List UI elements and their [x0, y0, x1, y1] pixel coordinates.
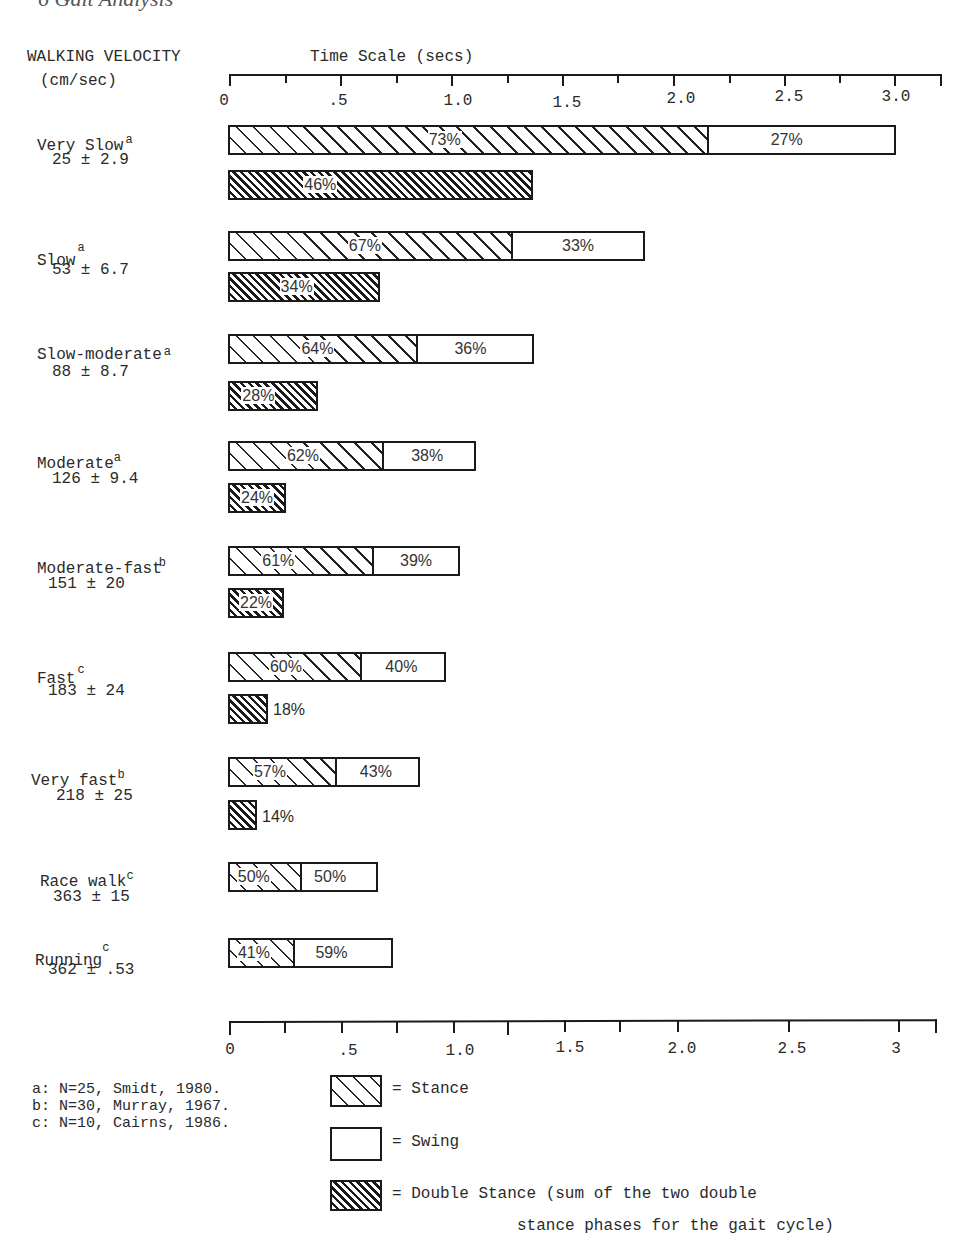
tick — [451, 74, 453, 86]
x-axis-title: Time Scale (secs) — [310, 48, 473, 66]
tick-label: .5 — [328, 92, 347, 110]
tick-label: 0 — [225, 1041, 235, 1059]
stance-bar: 60% — [228, 652, 362, 682]
tick-label: 1.5 — [556, 1039, 585, 1057]
stance-bar: 50% — [228, 862, 302, 892]
tick-label: 2.5 — [778, 1040, 807, 1058]
stance-bar: 64% — [228, 334, 418, 364]
tick — [839, 74, 841, 83]
stance-percent: 67% — [348, 237, 382, 254]
swing-percent: 27% — [771, 131, 803, 149]
swing-bar: 27% — [707, 125, 896, 155]
stance-bar: 61% — [228, 546, 374, 576]
swing-bar: 36% — [416, 334, 534, 364]
row-velocity: 88 ± 8.7 — [52, 362, 129, 382]
tick — [784, 74, 786, 86]
legend-swing-swatch — [330, 1127, 382, 1161]
y-axis-title: WALKING VELOCITY — [27, 48, 181, 66]
row-velocity: 53 ± 6.7 — [52, 260, 129, 280]
stance-percent: 60% — [269, 658, 303, 675]
stance-percent: 57% — [253, 763, 287, 780]
tick — [284, 1021, 286, 1033]
tick — [507, 1021, 509, 1035]
tick — [340, 74, 342, 86]
stance-bar: 41% — [228, 938, 295, 968]
tick — [229, 74, 231, 86]
stance-percent: 41% — [237, 944, 271, 961]
footnote-c: c: N=10, Cairns, 1986. — [32, 1115, 230, 1132]
swing-percent: 38% — [411, 447, 443, 465]
source-marker: c — [126, 869, 133, 883]
tick-label: .5 — [338, 1042, 357, 1060]
swing-percent: 36% — [454, 340, 486, 358]
tick — [229, 1021, 231, 1035]
double-stance-percent: 14% — [262, 808, 294, 826]
row-velocity: 25 ± 2.9 — [52, 150, 129, 170]
legend-double-stance-swatch — [330, 1180, 382, 1211]
double-stance-bar — [228, 694, 268, 724]
tick — [285, 74, 287, 83]
swing-percent: 43% — [360, 763, 392, 781]
stance-percent: 62% — [286, 447, 320, 464]
stance-percent: 61% — [261, 552, 295, 569]
tick — [677, 1020, 679, 1032]
double-stance-bar: 22% — [228, 588, 284, 618]
swing-percent: 33% — [562, 237, 594, 255]
top-axis-line — [229, 74, 942, 76]
row-velocity: 363 ± 15 — [53, 887, 130, 907]
tick-label: 1.0 — [444, 92, 473, 110]
double-stance-bar: 24% — [228, 483, 286, 513]
source-marker: b — [159, 556, 166, 570]
legend-stance-swatch — [330, 1075, 382, 1107]
stance-percent: 50% — [237, 868, 271, 885]
swing-bar: 40% — [360, 652, 446, 682]
row-velocity: 362 ± .53 — [48, 960, 134, 980]
double-stance-bar: 34% — [228, 272, 380, 302]
tick — [341, 1021, 343, 1033]
row-velocity: 151 ± 20 — [48, 574, 125, 594]
double-stance-percent: 24% — [240, 489, 274, 506]
footnote-a: a: N=25, Smidt, 1980. — [32, 1081, 221, 1098]
legend-double-stance-label: = Double Stance (sum of the two double — [392, 1185, 757, 1203]
tick — [619, 1020, 621, 1032]
tick — [453, 1021, 455, 1033]
running-head: 6 Gait Analysis — [38, 0, 173, 12]
tick — [729, 74, 731, 83]
row-velocity: 126 ± 9.4 — [52, 469, 138, 489]
tick — [507, 74, 509, 83]
tick — [396, 74, 398, 83]
double-stance-bar: 46% — [228, 170, 533, 200]
swing-bar: 33% — [511, 231, 645, 261]
tick-label: 3.0 — [882, 88, 911, 106]
source-marker: a — [125, 133, 132, 147]
tick-label: 3 — [891, 1040, 901, 1058]
swing-bar: 50% — [300, 862, 378, 892]
swing-percent: 59% — [315, 944, 347, 962]
tick — [673, 74, 675, 86]
swing-percent: 40% — [385, 658, 417, 676]
stance-bar: 67% — [228, 231, 513, 261]
tick — [788, 1020, 790, 1032]
tick — [564, 1020, 566, 1032]
source-marker: b — [117, 768, 124, 782]
tick — [396, 1021, 398, 1033]
tick-label: 1.0 — [446, 1042, 475, 1060]
stance-bar: 73% — [228, 125, 709, 155]
tick — [935, 1019, 937, 1033]
tick-label: 2.5 — [775, 88, 804, 106]
legend-double-stance-label-cont: stance phases for the gait cycle) — [517, 1217, 834, 1235]
tick-label: 2.0 — [667, 90, 696, 108]
double-stance-percent: 22% — [239, 594, 273, 611]
tick — [617, 74, 619, 83]
swing-bar: 43% — [335, 757, 420, 787]
double-stance-bar — [228, 800, 257, 830]
footnote-b: b: N=30, Murray, 1967. — [32, 1098, 230, 1115]
row-velocity: 183 ± 24 — [48, 681, 125, 701]
swing-bar: 39% — [372, 546, 460, 576]
swing-percent: 39% — [400, 552, 432, 570]
row-velocity: 218 ± 25 — [56, 786, 133, 806]
legend-stance-label: = Stance — [392, 1080, 469, 1098]
tick — [894, 74, 896, 86]
source-marker: a — [164, 345, 171, 359]
bottom-axis-line — [229, 1019, 937, 1023]
